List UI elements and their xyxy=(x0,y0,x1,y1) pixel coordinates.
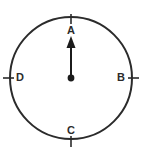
label-b: B xyxy=(117,71,125,83)
compass-diagram: A B C D xyxy=(0,0,142,151)
label-a: A xyxy=(67,24,75,36)
label-c: C xyxy=(67,124,75,136)
center-point-dot xyxy=(68,75,75,82)
label-d: D xyxy=(16,71,24,83)
compass-svg: A B C D xyxy=(0,0,142,151)
north-arrow-head xyxy=(67,36,76,48)
